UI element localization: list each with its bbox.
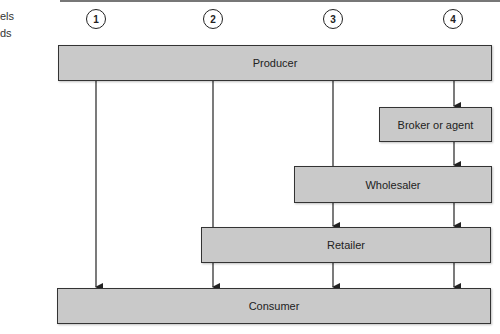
channel-number-1: 1 xyxy=(86,9,106,29)
wholesaler-box: Wholesaler xyxy=(294,166,492,203)
producer-box: Producer xyxy=(58,45,492,81)
channel-number-4: 4 xyxy=(443,9,463,29)
channel-number-2: 2 xyxy=(203,9,223,29)
broker-box: Broker or agent xyxy=(379,107,492,142)
retailer-box: Retailer xyxy=(201,227,491,263)
channel-number-3: 3 xyxy=(323,9,343,29)
consumer-box: Consumer xyxy=(57,288,491,324)
